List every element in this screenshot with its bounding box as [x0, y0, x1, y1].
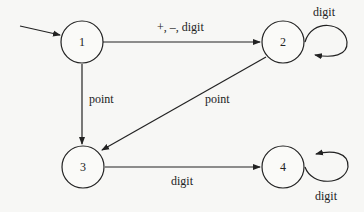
loop-2: [305, 25, 347, 56]
state-3: 3: [62, 146, 104, 188]
state-2-label: 2: [280, 35, 286, 49]
state-1: 1: [61, 21, 103, 63]
state-1-label: 1: [79, 35, 85, 49]
loop-4: [305, 152, 348, 181]
edge-label-1-2: +, –, digit: [157, 20, 204, 34]
state-4: 4: [262, 146, 304, 188]
state-4-label: 4: [280, 160, 286, 174]
start-arrow: [20, 26, 60, 35]
state-diagram: 1 2 3 4 +, –, digit digit point point di…: [0, 0, 364, 212]
state-2: 2: [262, 21, 304, 63]
edge-label-1-3: point: [89, 92, 114, 106]
edge-2-3: [102, 57, 266, 150]
edge-label-2-2: digit: [313, 5, 336, 19]
edge-label-2-3: point: [205, 92, 230, 106]
state-3-label: 3: [80, 160, 86, 174]
edge-label-4-4: digit: [315, 189, 338, 203]
edge-label-3-4: digit: [171, 174, 194, 188]
